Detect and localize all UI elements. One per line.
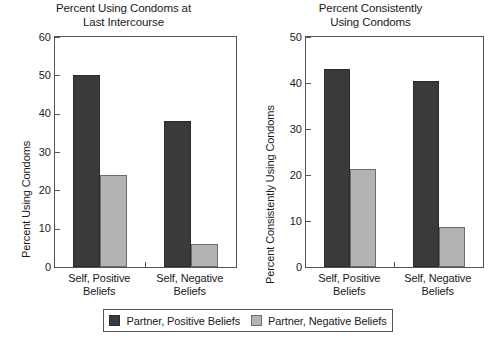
y-axis-tick-label: 40: [290, 77, 302, 89]
x-category-label-right-1: Self, Negative Beliefs: [383, 272, 493, 298]
y-axis-tick-label: 50: [290, 31, 302, 43]
y-axis-tick: 0: [306, 267, 311, 268]
y-axis-label-right: Percent Consistently Using Condoms: [264, 105, 276, 284]
legend-entry-negative: Partner, Negative Beliefs: [251, 315, 387, 327]
y-axis-tick-label: 50: [39, 69, 51, 81]
bar: [350, 169, 376, 267]
y-axis-tick-label: 20: [290, 169, 302, 181]
y-axis-tick: 0: [55, 267, 60, 268]
bar: [324, 69, 350, 267]
y-axis-tick: 10: [55, 229, 60, 230]
bar: [164, 121, 191, 267]
bar: [100, 175, 127, 267]
y-axis-tick-label: 30: [39, 146, 51, 158]
bar: [191, 244, 218, 267]
bar: [73, 75, 100, 267]
y-axis-tick-label: 30: [290, 123, 302, 135]
chart-panel-left: Percent Using Condoms at Last Intercours…: [0, 0, 247, 306]
x-axis-tick: [394, 262, 395, 267]
y-axis-tick: 40: [55, 114, 60, 115]
y-axis-tick: 20: [306, 175, 311, 176]
y-axis-tick: 10: [306, 221, 311, 222]
y-axis-tick-label: 10: [39, 222, 51, 234]
y-axis-tick-label: 40: [39, 107, 51, 119]
y-axis-tick-label: 0: [296, 261, 302, 273]
y-axis-tick: 40: [306, 83, 311, 84]
y-axis-tick-label: 60: [39, 31, 51, 43]
bar: [439, 227, 465, 267]
bar: [413, 81, 439, 267]
y-axis-tick: 50: [55, 75, 60, 76]
figure: Percent Using Condoms at Last Intercours…: [0, 0, 494, 346]
y-axis-tick-label: 10: [290, 215, 302, 227]
chart-panel-right: Percent Consistently Using Condoms Perce…: [247, 0, 494, 306]
legend-swatch-icon-positive: [109, 315, 120, 326]
y-axis-tick: 30: [55, 152, 60, 153]
y-axis-label-left: Percent Using Condoms: [20, 141, 32, 258]
chart-legend: Partner, Positive Beliefs Partner, Negat…: [103, 309, 393, 332]
y-axis-tick: 20: [55, 190, 60, 191]
x-category-label-left-1: Self, Negative Beliefs: [135, 272, 245, 298]
legend-swatch-icon-negative: [251, 315, 262, 326]
y-axis-tick: 30: [306, 129, 311, 130]
y-axis-tick-label: 0: [45, 261, 51, 273]
legend-label-positive: Partner, Positive Beliefs: [126, 315, 240, 327]
y-axis-tick-label: 20: [39, 184, 51, 196]
y-axis-tick: 50: [306, 37, 311, 38]
plot-area-left: 0102030405060: [54, 36, 237, 268]
x-axis-tick: [145, 262, 146, 267]
y-axis-tick: 60: [55, 37, 60, 38]
legend-label-negative: Partner, Negative Beliefs: [268, 315, 387, 327]
plot-area-right: 01020304050: [305, 36, 484, 268]
legend-entry-positive: Partner, Positive Beliefs: [109, 315, 240, 327]
chart-title-right: Percent Consistently Using Condoms: [247, 2, 494, 29]
chart-title-left: Percent Using Condoms at Last Intercours…: [0, 2, 247, 29]
